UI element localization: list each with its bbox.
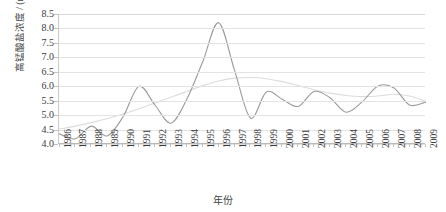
x-tick-mark — [249, 144, 250, 147]
x-tick-mark — [138, 144, 139, 147]
x-tick-mark — [122, 144, 123, 147]
x-tick-label: 1996 — [222, 114, 233, 148]
x-tick-label: 2008 — [413, 114, 424, 148]
x-tick-label: 2002 — [317, 114, 328, 148]
x-tick-mark — [154, 144, 155, 147]
x-tick-mark — [345, 144, 346, 147]
x-tick-label: 1986 — [63, 114, 74, 148]
x-tick-mark — [393, 144, 394, 147]
x-tick-mark — [313, 144, 314, 147]
x-tick-label: 1998 — [253, 114, 264, 148]
x-tick-label: 1988 — [94, 114, 105, 148]
x-tick-label: 1987 — [78, 114, 89, 148]
x-tick-mark — [186, 144, 187, 147]
x-tick-label: 1999 — [269, 114, 280, 148]
x-tick-mark — [59, 144, 60, 147]
x-tick-mark — [361, 144, 362, 147]
x-tick-label: 2007 — [397, 114, 408, 148]
x-tick-mark — [90, 144, 91, 147]
x-axis-ticks: 1986198719881989199019911992199319941995… — [0, 0, 446, 212]
x-tick-mark — [106, 144, 107, 147]
x-tick-label: 2009 — [429, 114, 440, 148]
x-tick-mark — [329, 144, 330, 147]
x-tick-mark — [170, 144, 171, 147]
x-tick-label: 1991 — [142, 114, 153, 148]
permanganate-concentration-chart: 高锰酸盐浓度 / (mg/L) 8.58.07.57.06.56.05.55.0… — [0, 0, 446, 212]
x-tick-mark — [202, 144, 203, 147]
x-tick-mark — [297, 144, 298, 147]
x-tick-label: 1997 — [238, 114, 249, 148]
x-tick-label: 1995 — [206, 114, 217, 148]
x-tick-mark — [265, 144, 266, 147]
x-tick-mark — [218, 144, 219, 147]
x-tick-label: 2005 — [365, 114, 376, 148]
x-tick-label: 1993 — [174, 114, 185, 148]
x-tick-label: 2000 — [285, 114, 296, 148]
x-tick-label: 2003 — [333, 114, 344, 148]
x-tick-label: 1990 — [126, 114, 137, 148]
x-tick-label: 2001 — [301, 114, 312, 148]
x-tick-mark — [74, 144, 75, 147]
x-tick-mark — [425, 144, 426, 147]
x-tick-label: 2006 — [381, 114, 392, 148]
x-tick-mark — [377, 144, 378, 147]
x-tick-label: 1994 — [190, 114, 201, 148]
x-tick-mark — [409, 144, 410, 147]
x-tick-label: 1992 — [158, 114, 169, 148]
x-axis-title: 年份 — [0, 192, 446, 207]
x-tick-mark — [281, 144, 282, 147]
x-tick-mark — [234, 144, 235, 147]
x-tick-label: 1989 — [110, 114, 121, 148]
x-tick-label: 2004 — [349, 114, 360, 148]
